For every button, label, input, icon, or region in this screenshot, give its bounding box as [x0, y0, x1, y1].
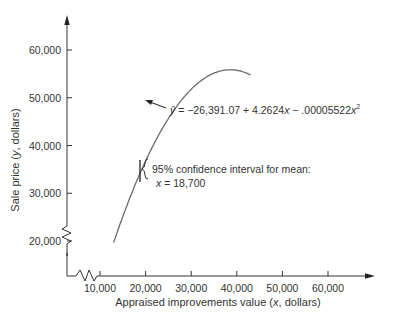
y-axis [62, 15, 71, 256]
y-tick-label: 40,000 [29, 140, 61, 152]
y-axis-break-icon [62, 222, 71, 256]
brace-icon [142, 159, 148, 179]
x-tick-label: 40,000 [221, 282, 253, 294]
xlabel-post: , dollars) [279, 296, 321, 308]
ci-label-line2: x = 18,700 [155, 177, 205, 189]
x-axis-break-icon [67, 253, 368, 281]
regression-equation: ŷ = −26,391.07 + 4.2624x − .00005522x2 [169, 103, 360, 116]
x-tick-label: 50,000 [266, 282, 298, 294]
arrow-head-icon [145, 100, 153, 105]
y-tick-label: 20,000 [29, 235, 61, 247]
eq-part-b: − .00005522 [289, 104, 351, 116]
ci-x-value: = 18,700 [161, 177, 205, 189]
y-tick-label: 50,000 [29, 92, 61, 104]
x-tick-label: 60,000 [312, 282, 344, 294]
y-ticks: 20,00030,00040,00050,00060,000 [29, 44, 72, 247]
x-tick-label: 20,000 [130, 282, 162, 294]
x-axis-label: Appraised improvements value (x, dollars… [115, 296, 320, 308]
ci-label-line1: 95% confidence interval for mean: [152, 163, 311, 175]
chart-canvas: 20,00030,00040,00050,00060,000 10,00020,… [0, 0, 413, 320]
xlabel-pre: Appraised improvements value ( [115, 296, 273, 308]
eq-superscript: 2 [356, 103, 360, 110]
y-tick-label: 60,000 [29, 44, 61, 56]
y-axis-arrow-icon [64, 15, 69, 25]
y-tick-label: 30,000 [29, 187, 61, 199]
x-ticks: 10,00020,00030,00040,00050,00060,000 [84, 271, 344, 294]
x-axis-arrow-icon [365, 273, 375, 278]
x-axis [67, 253, 375, 281]
x-tick-label: 30,000 [175, 282, 207, 294]
ylabel-pre: Sale price ( [9, 156, 21, 212]
eq-part-a: = −26,391.07 + 4.2624 [175, 104, 284, 116]
equation-arrow [145, 100, 166, 108]
ylabel-post: , dollars) [9, 108, 21, 150]
x-tick-label: 10,000 [84, 282, 116, 294]
fitted-curve [114, 70, 251, 243]
y-axis-label: Sale price (y, dollars) [9, 108, 21, 211]
